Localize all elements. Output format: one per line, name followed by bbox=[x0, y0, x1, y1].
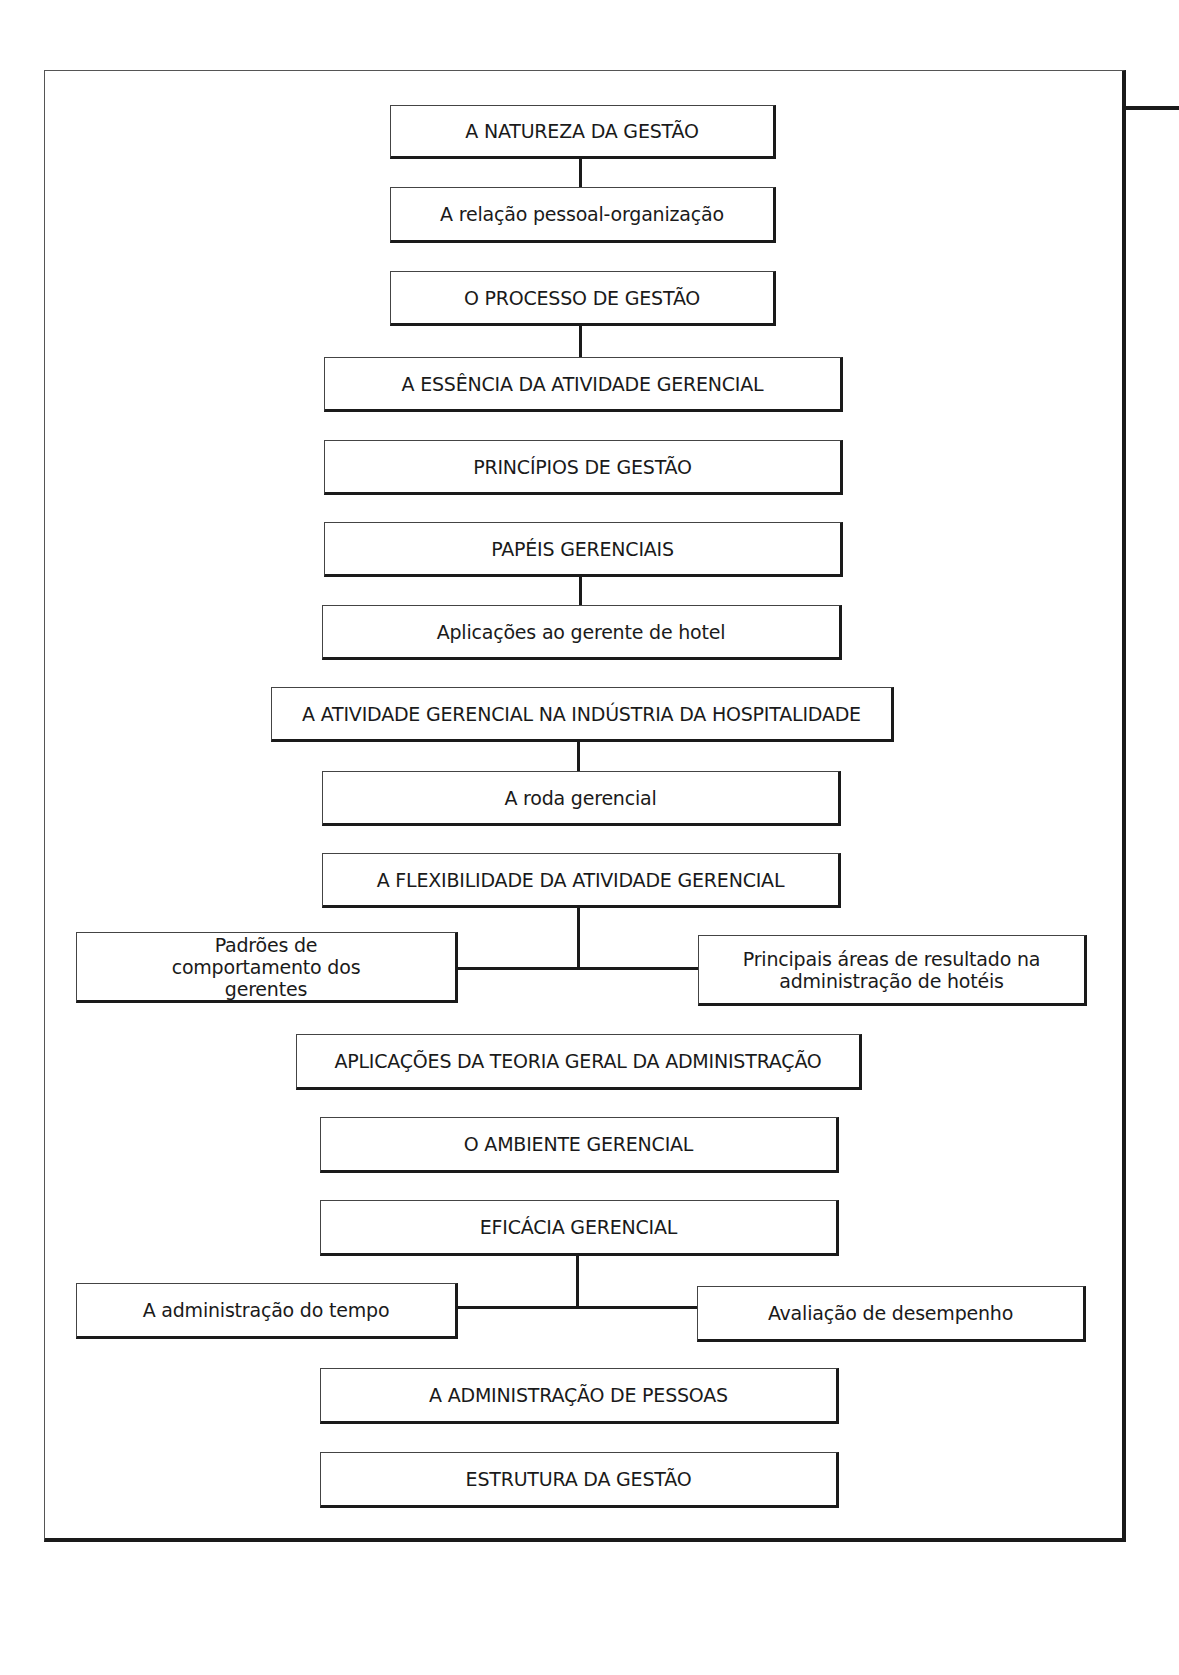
box-ambiente-gerencial: O AMBIENTE GERENCIAL bbox=[320, 1117, 839, 1173]
box-label: A roda gerencial bbox=[504, 787, 656, 809]
box-label: Avaliação de desempenho bbox=[768, 1302, 1013, 1324]
box-relacao-pessoal-organizacao: A relação pessoal-organização bbox=[390, 187, 776, 243]
box-label: EFICÁCIA GERENCIAL bbox=[480, 1216, 677, 1238]
box-administracao-de-pessoas: A ADMINISTRAÇÃO DE PESSOAS bbox=[320, 1368, 839, 1424]
box-administracao-do-tempo: A administração do tempo bbox=[76, 1283, 458, 1339]
box-label: A ESSÊNCIA DA ATIVIDADE GERENCIAL bbox=[402, 373, 764, 395]
frame-tab-line bbox=[1126, 106, 1179, 110]
box-essencia-atividade-gerencial: A ESSÊNCIA DA ATIVIDADE GERENCIAL bbox=[324, 357, 843, 412]
box-processo-de-gestao: O PROCESSO DE GESTÃO bbox=[390, 271, 776, 326]
box-flexibilidade-atividade-gerencial: A FLEXIBILIDADE DA ATIVIDADE GERENCIAL bbox=[322, 853, 841, 908]
box-label: O PROCESSO DE GESTÃO bbox=[464, 287, 700, 309]
box-label: PAPÉIS GERENCIAIS bbox=[491, 538, 674, 560]
box-natureza-da-gestao: A NATUREZA DA GESTÃO bbox=[390, 105, 776, 159]
box-label: A NATUREZA DA GESTÃO bbox=[465, 120, 698, 142]
box-label: Padrões de comportamento dos gerentes bbox=[151, 934, 381, 1000]
box-label: A ATIVIDADE GERENCIAL NA INDÚSTRIA DA HO… bbox=[302, 703, 861, 725]
box-label: A administração do tempo bbox=[143, 1299, 390, 1321]
box-label: A FLEXIBILIDADE DA ATIVIDADE GERENCIAL bbox=[377, 869, 785, 891]
box-eficacia-gerencial: EFICÁCIA GERENCIAL bbox=[320, 1200, 839, 1256]
box-label: PRINCÍPIOS DE GESTÃO bbox=[473, 456, 692, 478]
box-aplicacoes-gerente-hotel: Aplicações ao gerente de hotel bbox=[322, 605, 842, 660]
box-label: APLICAÇÕES DA TEORIA GERAL DA ADMINISTRA… bbox=[334, 1050, 821, 1072]
box-padroes-comportamento: Padrões de comportamento dos gerentes bbox=[76, 932, 458, 1003]
box-label: A ADMINISTRAÇÃO DE PESSOAS bbox=[429, 1384, 728, 1406]
box-estrutura-da-gestao: ESTRUTURA DA GESTÃO bbox=[320, 1452, 839, 1508]
box-aplicacoes-teoria-geral: APLICAÇÕES DA TEORIA GERAL DA ADMINISTRA… bbox=[296, 1034, 862, 1090]
box-principais-areas-resultado: Principais áreas de resultado na adminis… bbox=[698, 935, 1087, 1006]
box-principios-de-gestao: PRINCÍPIOS DE GESTÃO bbox=[324, 440, 843, 495]
box-label: ESTRUTURA DA GESTÃO bbox=[466, 1468, 692, 1490]
connector-eficacia-branches bbox=[456, 1306, 701, 1309]
connector-eficacia-down bbox=[576, 1253, 579, 1309]
box-label: O AMBIENTE GERENCIAL bbox=[464, 1133, 694, 1155]
box-roda-gerencial: A roda gerencial bbox=[322, 771, 841, 826]
connector-processo-essencia bbox=[579, 324, 582, 358]
box-atividade-gerencial-hospitalidade: A ATIVIDADE GERENCIAL NA INDÚSTRIA DA HO… bbox=[271, 687, 894, 742]
box-label: A relação pessoal-organização bbox=[440, 203, 724, 225]
box-papeis-gerenciais: PAPÉIS GERENCIAIS bbox=[324, 522, 843, 577]
box-label: Principais áreas de resultado na adminis… bbox=[737, 948, 1047, 992]
connector-flexibilidade-down bbox=[577, 903, 580, 969]
connector-papeis-aplicacoes bbox=[579, 574, 582, 606]
connector-flexibilidade-branches bbox=[456, 967, 701, 970]
connector-hospitalidade-roda bbox=[577, 739, 580, 773]
box-avaliacao-de-desempenho: Avaliação de desempenho bbox=[697, 1286, 1086, 1342]
connector-natureza-relacao bbox=[579, 157, 582, 187]
box-label: Aplicações ao gerente de hotel bbox=[437, 621, 726, 643]
